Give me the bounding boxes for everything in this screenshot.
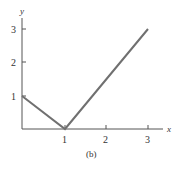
x-tick-label-1: 1 <box>62 134 67 145</box>
figure-caption: (b) <box>86 149 97 159</box>
y-axis-label: y <box>19 6 24 16</box>
x-tick-label-2: 2 <box>103 134 108 145</box>
x-axis-label: x <box>166 124 171 134</box>
y-tick-label-2: 2 <box>11 57 16 68</box>
y-tick-label-1: 1 <box>11 91 16 102</box>
y-tick-label-3: 3 <box>11 24 16 35</box>
data-line <box>22 29 148 129</box>
x-tick-label-3: 3 <box>145 134 150 145</box>
chart-canvas: 3 2 1 1 2 3 y x (b) <box>0 0 178 170</box>
